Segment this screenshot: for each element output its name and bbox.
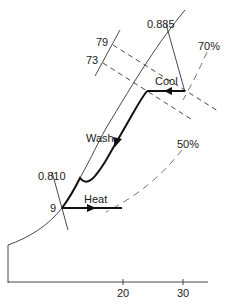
- rh-curve-70: 70%: [183, 40, 220, 100]
- psychrometric-diagram: 20 30 79 73 0.885 0.810 70% 50% Cool Was: [0, 0, 227, 307]
- x-tick-label-30: 30: [177, 287, 189, 299]
- rh-label-50: 50%: [177, 138, 199, 150]
- rh-label-70: 70%: [198, 40, 220, 52]
- rh-curve-50: 50%: [106, 138, 199, 212]
- volume-label-0810: 0.810: [38, 170, 66, 182]
- heat-arrowhead-icon: [87, 204, 96, 212]
- wet-bulb-label-79: 79: [96, 36, 108, 48]
- wash-arrow-line: [62, 91, 147, 208]
- cool-label: Cool: [155, 75, 178, 87]
- rh-curve-50-line: [106, 150, 182, 212]
- chart-axes: 20 30: [8, 245, 208, 299]
- wash-label: Wash: [86, 132, 114, 144]
- process-wash: Wash: [62, 91, 147, 208]
- wet-bulb-label-73: 73: [86, 54, 98, 66]
- rh-curve-70-line: [183, 52, 207, 100]
- heat-label: Heat: [84, 193, 107, 205]
- volume-line-0810: 0.810: [38, 170, 68, 230]
- cool-arrowhead-icon: [164, 87, 172, 95]
- state-point-label: 9: [50, 202, 56, 214]
- x-tick-label-20: 20: [117, 287, 129, 299]
- volume-label-0885: 0.885: [147, 18, 175, 30]
- process-cool: Cool: [147, 75, 185, 95]
